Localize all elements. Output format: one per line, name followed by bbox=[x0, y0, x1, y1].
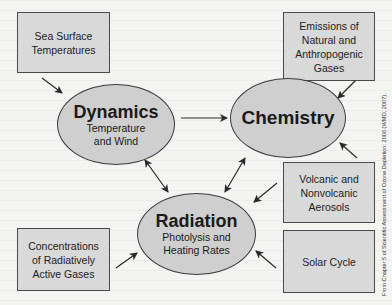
node-title: Radiation bbox=[155, 211, 237, 231]
arrow-sea-to-dynamics bbox=[42, 78, 62, 93]
node-subtitle: Photolysis and bbox=[162, 231, 230, 244]
solar-cycle-box: Solar Cycle bbox=[283, 230, 375, 293]
box-label-line: Concentrations bbox=[28, 239, 99, 253]
arrow-emissions-to-chemistry bbox=[338, 79, 357, 98]
box-label-line: Natural and bbox=[295, 33, 363, 47]
node-title: Chemistry bbox=[242, 108, 335, 128]
node-subtitle: Temperature bbox=[87, 122, 146, 135]
arrow-aerosols-to-radiation bbox=[254, 183, 277, 202]
box-label-line: Emissions of bbox=[295, 19, 363, 33]
box-label-line: Anthropogenic bbox=[295, 47, 363, 61]
chemistry-node: Chemistry bbox=[230, 78, 346, 158]
node-subtitle: and Wind bbox=[94, 135, 138, 148]
source-credit: From Chapter 5 of Scientific Assessment … bbox=[381, 93, 387, 296]
aerosols-box: Volcanic and Nonvolcanic Aerosols bbox=[283, 162, 375, 223]
emissions-box: Emissions of Natural and Anthropogenic G… bbox=[283, 12, 375, 81]
box-label-line: Active Gases bbox=[28, 267, 99, 281]
node-title: Dynamics bbox=[73, 102, 158, 122]
box-label-line: Gases bbox=[295, 61, 363, 75]
dynamics-node: Dynamics Temperature and Wind bbox=[57, 84, 175, 165]
box-label-line: of Radiatively bbox=[28, 253, 99, 267]
concentrations-box: Concentrations of Radiatively Active Gas… bbox=[17, 228, 110, 291]
box-label-line: Temperatures bbox=[31, 43, 95, 57]
box-label-line: Nonvolcanic bbox=[299, 186, 359, 200]
node-subtitle: Heating Rates bbox=[163, 244, 230, 257]
arrow-chemistry-radiation bbox=[225, 158, 245, 192]
arrow-aerosols-to-chemistry bbox=[340, 143, 357, 158]
box-label-line: Aerosols bbox=[299, 200, 359, 214]
box-label-line: Volcanic and bbox=[299, 172, 359, 186]
box-label-line: Solar Cycle bbox=[302, 255, 356, 269]
arrow-concentrations-to-radiation bbox=[116, 253, 137, 268]
arrow-solar-to-radiation bbox=[256, 251, 276, 268]
arrow-dynamics-radiation bbox=[145, 160, 168, 192]
box-label-line: Sea Surface bbox=[31, 29, 95, 43]
sea-surface-temperatures-box: Sea Surface Temperatures bbox=[17, 12, 110, 73]
radiation-node: Radiation Photolysis and Heating Rates bbox=[137, 193, 256, 275]
